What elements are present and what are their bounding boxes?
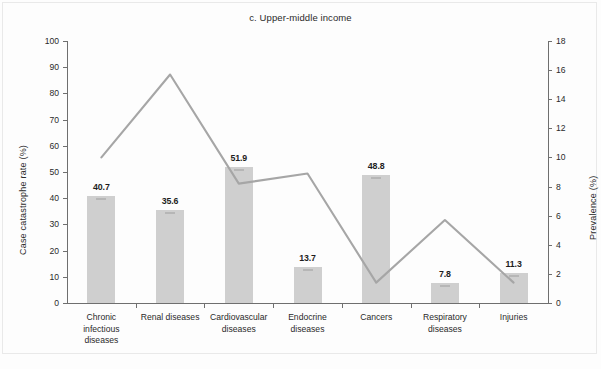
x-axis-category-label: Injuries	[472, 312, 556, 324]
bar[interactable]	[500, 273, 528, 303]
y-axis-right-title: Prevalence (%)	[588, 176, 598, 240]
y-axis-right-tick-label: 14	[556, 95, 582, 104]
x-axis-category-label-line: diseases	[266, 324, 350, 336]
y-axis-right-tick-mark	[548, 245, 552, 246]
bar-error-cap	[371, 177, 381, 179]
y-axis-right-tick-label: 2	[556, 270, 582, 279]
y-axis-right-tick-label: 12	[556, 124, 582, 133]
bar-value-label: 40.7	[76, 182, 126, 192]
y-axis-right-tick-label: 10	[556, 153, 582, 162]
plot-area	[67, 38, 548, 303]
x-axis-category-label-line: infectious	[59, 324, 143, 336]
bar-error-cap	[440, 285, 450, 287]
y-axis-right-tick-label: 8	[556, 183, 582, 192]
bar-error-cap	[509, 275, 519, 277]
y-axis-right-tick-mark	[548, 157, 552, 158]
x-axis-tick-mark	[479, 303, 480, 308]
x-axis-tick-mark	[411, 303, 412, 308]
x-axis-tick-mark	[342, 303, 343, 308]
x-axis-spine	[67, 303, 549, 304]
bar-value-label: 13.7	[283, 253, 333, 263]
bar[interactable]	[156, 210, 184, 303]
bar[interactable]	[87, 196, 115, 303]
y-axis-right-tick-label: 4	[556, 241, 582, 250]
y-axis-left-tick-label: 80	[33, 89, 59, 98]
y-axis-right-tick-mark	[548, 303, 552, 304]
bar-value-label: 7.8	[420, 269, 470, 279]
y-axis-left-tick-label: 20	[33, 247, 59, 256]
y-axis-left-tick-label: 0	[33, 299, 59, 308]
bar[interactable]	[362, 175, 390, 303]
y-axis-right-tick-label: 18	[556, 37, 582, 46]
x-axis-tick-mark	[204, 303, 205, 308]
bar-error-cap	[303, 269, 313, 271]
x-axis-category-label-line: diseases	[59, 335, 143, 347]
bar-value-label: 48.8	[351, 161, 401, 171]
bar-error-cap	[234, 169, 244, 171]
y-axis-right-tick-label: 16	[556, 66, 582, 75]
figure-container: c. Upper-middle income Case catastrophe …	[0, 0, 601, 369]
x-axis-category-label-line: diseases	[403, 324, 487, 336]
bar-error-cap	[165, 212, 175, 214]
x-axis-tick-mark	[273, 303, 274, 308]
y-axis-left-tick-label: 90	[33, 63, 59, 72]
y-axis-left-tick-label: 60	[33, 142, 59, 151]
y-axis-right-tick-mark	[548, 187, 552, 188]
y-axis-left-tick-label: 40	[33, 194, 59, 203]
y-axis-right-tick-mark	[548, 128, 552, 129]
x-axis-tick-mark	[136, 303, 137, 308]
y-axis-left-tick-mark	[63, 303, 67, 304]
y-axis-right-tick-label: 6	[556, 212, 582, 221]
y-axis-left-tick-label: 100	[33, 37, 59, 46]
bar[interactable]	[431, 283, 459, 303]
y-axis-right-tick-mark	[548, 41, 552, 42]
bar-value-label: 35.6	[145, 196, 195, 206]
bar-value-label: 11.3	[489, 259, 539, 269]
chart-title: c. Upper-middle income	[0, 12, 601, 23]
y-axis-left-tick-label: 70	[33, 116, 59, 125]
y-axis-left-tick-label: 50	[33, 168, 59, 177]
x-axis-category-label-line: Injuries	[472, 312, 556, 324]
y-axis-right-tick-mark	[548, 274, 552, 275]
y-axis-right-tick-mark	[548, 216, 552, 217]
y-axis-right-spine	[548, 41, 549, 303]
y-axis-left-tick-label: 30	[33, 220, 59, 229]
bar-value-label: 51.9	[214, 153, 264, 163]
y-axis-right-tick-label: 0	[556, 299, 582, 308]
y-axis-left-title: Case catastrophe rate (%)	[18, 145, 28, 255]
bar[interactable]	[294, 267, 322, 303]
y-axis-left-tick-label: 10	[33, 273, 59, 282]
y-axis-right-tick-mark	[548, 70, 552, 71]
bar[interactable]	[225, 167, 253, 303]
bar-error-cap	[96, 198, 106, 200]
y-axis-right-tick-mark	[548, 99, 552, 100]
